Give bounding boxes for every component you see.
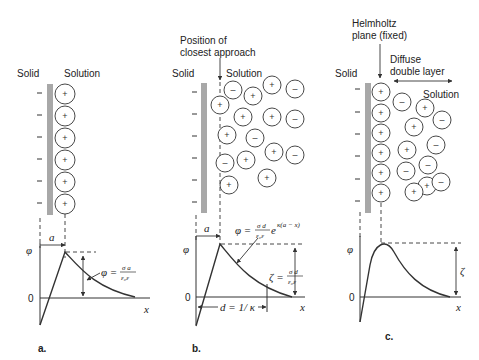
phi-axis-label: φ bbox=[26, 244, 32, 256]
svg-text:+: + bbox=[226, 180, 231, 190]
svg-text:+: + bbox=[264, 173, 269, 183]
panel-b: Position of closest approach Solid Solut… bbox=[172, 35, 305, 354]
zero-label: 0 bbox=[349, 292, 355, 303]
cation: + bbox=[55, 128, 75, 148]
x-axis-label: x bbox=[143, 303, 149, 315]
svg-text:e: e bbox=[271, 224, 276, 236]
svg-text:–: – bbox=[399, 97, 404, 107]
cation: + bbox=[237, 151, 255, 169]
svg-text:+: + bbox=[269, 80, 274, 90]
x-axis-label: x bbox=[299, 301, 305, 313]
svg-text:ε₀ε: ε₀ε bbox=[121, 274, 129, 282]
equation-b: φ = σ d ε₀ε e κ(a − x) bbox=[235, 221, 301, 240]
potential-curve bbox=[196, 244, 292, 326]
cation: + bbox=[220, 176, 238, 194]
cation: + bbox=[372, 104, 390, 122]
cation: + bbox=[55, 172, 75, 192]
panel-caption-b: b. bbox=[192, 343, 201, 354]
diffuse-label-2: double layer bbox=[390, 66, 445, 77]
svg-text:–: – bbox=[425, 160, 430, 170]
ion-layer: +–++–++–+–+––+++ bbox=[211, 76, 304, 194]
svg-text:+: + bbox=[250, 91, 255, 101]
anion: – bbox=[286, 110, 304, 128]
anion: – bbox=[246, 129, 264, 147]
cation: + bbox=[258, 169, 276, 187]
svg-text:–: – bbox=[439, 115, 444, 125]
solid-surface bbox=[365, 83, 371, 213]
phi-axis-label: φ bbox=[183, 243, 189, 255]
svg-text:+: + bbox=[378, 108, 383, 118]
solution-label: Solution bbox=[64, 68, 100, 79]
solid-surface bbox=[47, 84, 53, 215]
helmholtz-label-2: plane (fixed) bbox=[352, 30, 407, 41]
svg-text:+: + bbox=[378, 128, 383, 138]
anion: – bbox=[419, 156, 437, 174]
cation: + bbox=[405, 183, 423, 201]
solid-label: Solid bbox=[335, 68, 357, 79]
cation: + bbox=[263, 76, 281, 94]
panel-caption-c: c. bbox=[385, 331, 394, 342]
diffuse-label-1: Diffuse bbox=[390, 54, 421, 65]
distance-a-label: a bbox=[204, 222, 210, 234]
svg-text:–: – bbox=[230, 85, 235, 95]
panel-caption-a: a. bbox=[38, 343, 47, 354]
panel-c: Helmholtz plane (fixed) Diffuse double l… bbox=[335, 18, 466, 342]
cation: + bbox=[244, 87, 262, 105]
zeta-label: ζ bbox=[460, 265, 466, 278]
svg-text:+: + bbox=[224, 130, 229, 140]
svg-text:ε₀ε: ε₀ε bbox=[256, 232, 264, 240]
cation: + bbox=[55, 106, 75, 126]
double-layer-diagram: Solid Solution ++++++ a φ 0 x φ = σ a bbox=[0, 0, 479, 360]
svg-text:+: + bbox=[243, 155, 248, 165]
cation: + bbox=[55, 194, 75, 214]
anion: – bbox=[286, 146, 304, 164]
svg-text:+: + bbox=[62, 199, 67, 209]
svg-text:–: – bbox=[403, 166, 408, 176]
anion: – bbox=[286, 80, 304, 98]
svg-text:–: – bbox=[292, 150, 297, 160]
svg-text:+: + bbox=[62, 111, 67, 121]
equation-a: φ = σ a ε₀ε bbox=[101, 264, 136, 282]
ion-layer: ++++++–+–+–+––+–+ bbox=[372, 83, 451, 202]
x-axis-label: x bbox=[455, 301, 461, 313]
anion: – bbox=[433, 111, 451, 129]
cation: + bbox=[218, 126, 236, 144]
svg-text:ζ =: ζ = bbox=[269, 271, 284, 284]
svg-text:+: + bbox=[378, 188, 383, 198]
svg-text:φ =: φ = bbox=[101, 266, 117, 278]
distance-a-label: a bbox=[49, 231, 55, 243]
cation: + bbox=[372, 124, 390, 142]
anion: – bbox=[224, 81, 242, 99]
svg-text:σ d: σ d bbox=[257, 222, 266, 230]
svg-text:+: + bbox=[62, 89, 67, 99]
svg-text:σ a: σ a bbox=[122, 264, 131, 272]
phi-axis-label: φ bbox=[347, 243, 353, 255]
cation: + bbox=[416, 99, 434, 117]
surface-charges bbox=[192, 92, 197, 202]
surface-charges bbox=[355, 89, 360, 201]
svg-text:+: + bbox=[411, 187, 416, 197]
solution-label: Solution bbox=[423, 89, 459, 100]
cation: + bbox=[234, 108, 252, 126]
svg-text:–: – bbox=[292, 84, 297, 94]
svg-text:+: + bbox=[62, 177, 67, 187]
solid-surface bbox=[201, 83, 207, 213]
svg-text:+: + bbox=[62, 133, 67, 143]
pointer-arrow bbox=[237, 238, 258, 263]
panel-a: Solid Solution ++++++ a φ 0 x φ = σ a bbox=[17, 68, 150, 354]
solid-label: Solid bbox=[172, 68, 194, 79]
potential-curve bbox=[360, 244, 450, 322]
cation: + bbox=[372, 164, 390, 182]
svg-text:+: + bbox=[411, 122, 416, 132]
zeta-equation-b: ζ = σ d ε₀ε bbox=[269, 268, 303, 286]
solid-label: Solid bbox=[17, 68, 39, 79]
svg-text:–: – bbox=[433, 140, 438, 150]
surface-charges bbox=[37, 93, 42, 203]
svg-text:+: + bbox=[269, 112, 274, 122]
zero-label: 0 bbox=[28, 293, 34, 304]
anion: – bbox=[393, 93, 411, 111]
svg-text:κ(a − x): κ(a − x) bbox=[277, 221, 301, 229]
anion: – bbox=[216, 154, 234, 172]
anion: – bbox=[397, 162, 415, 180]
svg-text:+: + bbox=[217, 100, 222, 110]
